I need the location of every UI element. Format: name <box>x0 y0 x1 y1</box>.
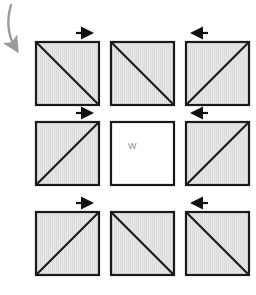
cell-r1c1[interactable] <box>36 42 99 105</box>
cell-r2c3[interactable] <box>186 122 249 185</box>
diagram-canvas: W <box>0 0 256 295</box>
cell-r3c3[interactable] <box>186 212 249 275</box>
cell-r2c2-square[interactable] <box>111 122 174 185</box>
cell-r2c2[interactable] <box>111 122 174 185</box>
center-cell-label: W <box>128 142 137 151</box>
cell-r2c1[interactable] <box>36 122 99 185</box>
rotation-arrow-icon <box>8 5 15 47</box>
cell-r1c3[interactable] <box>186 42 249 105</box>
cell-r1c2[interactable] <box>111 42 174 105</box>
cell-r3c2[interactable] <box>111 212 174 275</box>
cell-r3c1[interactable] <box>36 212 99 275</box>
